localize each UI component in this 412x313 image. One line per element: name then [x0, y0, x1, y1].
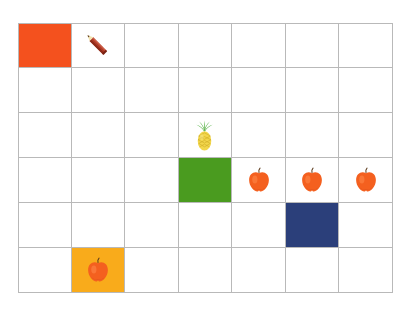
- cell-r3c7-empty[interactable]: [339, 113, 393, 158]
- apple-icon: [299, 167, 325, 193]
- cell-r4c2-empty[interactable]: [72, 158, 126, 203]
- cell-r1c7-empty[interactable]: [339, 23, 393, 68]
- cell-r1c3-empty[interactable]: [125, 23, 179, 68]
- cell-r3c1-empty[interactable]: [18, 113, 72, 158]
- cell-r6c4-empty[interactable]: [179, 248, 233, 293]
- cell-r5c7-empty[interactable]: [339, 203, 393, 248]
- cell-r1c1-orange-square[interactable]: [18, 23, 72, 68]
- cell-r4c1-empty[interactable]: [18, 158, 72, 203]
- cell-fill: [19, 24, 71, 67]
- cell-r5c1-empty[interactable]: [18, 203, 72, 248]
- cell-r2c6-empty[interactable]: [286, 68, 340, 113]
- cell-r3c3-empty[interactable]: [125, 113, 179, 158]
- cell-r6c3-empty[interactable]: [125, 248, 179, 293]
- cell-r2c2-empty[interactable]: [72, 68, 126, 113]
- cell-r1c5-empty[interactable]: [232, 23, 286, 68]
- cell-r4c4-green-square[interactable]: [179, 158, 233, 203]
- cell-r2c5-empty[interactable]: [232, 68, 286, 113]
- cell-fill: [286, 203, 339, 247]
- cell-fill: [179, 158, 232, 202]
- cell-r2c1-empty[interactable]: [18, 68, 72, 113]
- cell-r2c3-empty[interactable]: [125, 68, 179, 113]
- apple-icon: [85, 257, 111, 283]
- cell-r3c6-empty[interactable]: [286, 113, 340, 158]
- cell-r1c4-empty[interactable]: [179, 23, 233, 68]
- cell-r5c3-empty[interactable]: [125, 203, 179, 248]
- cell-r5c5-empty[interactable]: [232, 203, 286, 248]
- cell-r2c4-empty[interactable]: [179, 68, 233, 113]
- cell-r5c2-empty[interactable]: [72, 203, 126, 248]
- pineapple-icon: [191, 119, 218, 152]
- apple-icon: [246, 167, 272, 193]
- worksheet-canvas: [0, 0, 412, 313]
- cell-r4c5-apple[interactable]: [232, 158, 286, 203]
- cell-r6c5-empty[interactable]: [232, 248, 286, 293]
- grid: [18, 23, 393, 293]
- cell-r6c2-amber-apple[interactable]: [72, 248, 126, 293]
- cell-r5c4-empty[interactable]: [179, 203, 233, 248]
- cell-r6c6-empty[interactable]: [286, 248, 340, 293]
- pencil-icon: [81, 29, 115, 63]
- cell-r3c4-pineapple[interactable]: [179, 113, 233, 158]
- cell-r1c6-empty[interactable]: [286, 23, 340, 68]
- cell-r2c7-empty[interactable]: [339, 68, 393, 113]
- cell-r4c6-apple[interactable]: [286, 158, 340, 203]
- cell-r3c2-empty[interactable]: [72, 113, 126, 158]
- cell-r3c5-empty[interactable]: [232, 113, 286, 158]
- cell-r5c6-navy-square[interactable]: [286, 203, 340, 248]
- cell-r1c2-pencil[interactable]: [72, 23, 126, 68]
- cell-r4c7-apple[interactable]: [339, 158, 393, 203]
- cell-r4c3-empty[interactable]: [125, 158, 179, 203]
- apple-icon: [353, 167, 379, 193]
- cell-r6c7-empty[interactable]: [339, 248, 393, 293]
- cell-r6c1-empty[interactable]: [18, 248, 72, 293]
